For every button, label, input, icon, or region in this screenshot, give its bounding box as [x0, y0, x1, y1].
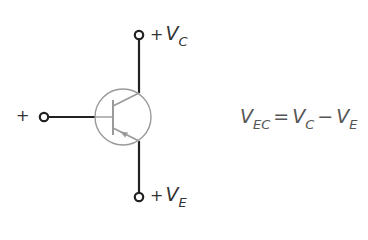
emitter-label: +VE	[150, 183, 187, 205]
emitter-arrow-icon	[120, 132, 128, 138]
eq-term2-symbol: V	[336, 105, 349, 127]
eq-lhs-subscript: EC	[253, 117, 270, 132]
eq-equals: =	[273, 105, 289, 127]
emitter-subscript: E	[178, 195, 186, 210]
emitter-terminal	[135, 193, 143, 201]
emitter-sign: +	[150, 186, 163, 205]
pnp-transistor-symbol	[95, 89, 151, 145]
eq-lhs-symbol: V	[240, 105, 253, 127]
base-label: +	[16, 106, 31, 125]
voltage-equation: VEC=VC−VE	[240, 105, 357, 127]
collector-symbol: V	[165, 22, 178, 44]
collector-subscript: C	[178, 34, 187, 49]
eq-term1-subscript: C	[305, 117, 314, 132]
base-terminal	[40, 113, 48, 121]
base-sign: +	[16, 106, 29, 125]
eq-term1-symbol: V	[292, 105, 305, 127]
collector-label: +VC	[150, 22, 187, 44]
eq-minus: −	[317, 105, 333, 127]
emitter-symbol: V	[165, 183, 178, 205]
collector-lead	[113, 93, 139, 106]
eq-term2-subscript: E	[349, 117, 357, 132]
collector-terminal	[135, 31, 143, 39]
collector-sign: +	[150, 25, 163, 44]
